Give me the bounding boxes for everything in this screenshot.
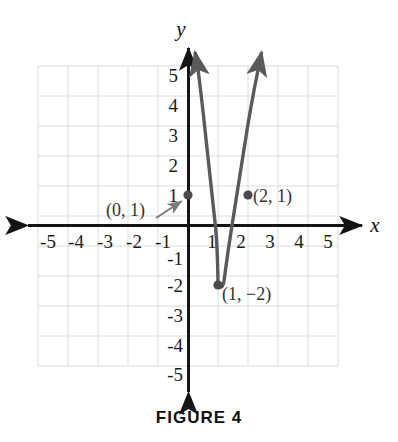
x-tick-label--5: -5 — [40, 231, 56, 252]
x-tick-label-4: 4 — [294, 231, 304, 252]
y-tick-label--5: -5 — [167, 364, 183, 385]
x-tick-label-3: 3 — [265, 231, 275, 252]
figure-caption: FIGURE 4 — [0, 408, 398, 428]
y-tick-label--1: -1 — [167, 248, 183, 269]
point-2-1 — [243, 190, 252, 199]
annotation-label-1-neg2: (1, −2) — [222, 284, 271, 305]
annotation-label-0-1: (0, 1) — [106, 200, 145, 221]
y-tick-label-1: 1 — [169, 185, 179, 206]
x-tick-label-5: 5 — [323, 231, 333, 252]
y-tick-label-2: 2 — [169, 155, 179, 176]
y-tick-label--4: -4 — [167, 335, 183, 356]
x-tick-label--2: -2 — [126, 231, 142, 252]
y-tick-label--3: -3 — [167, 305, 183, 326]
y-tick-label--2: -2 — [167, 275, 183, 296]
figure-container: y x -5 -4 -3 -2 -1 1 2 3 4 5 5 4 3 2 1 -… — [0, 0, 398, 442]
x-tick-label--3: -3 — [97, 231, 113, 252]
point-0-1 — [183, 190, 192, 199]
x-axis-label: x — [369, 213, 380, 237]
annotation-label-2-1: (2, 1) — [253, 186, 292, 207]
y-tick-label-5: 5 — [169, 65, 179, 86]
x-tick-label-2: 2 — [236, 231, 246, 252]
y-axis-label: y — [174, 17, 186, 41]
y-tick-label-3: 3 — [169, 125, 179, 146]
x-tick-label--4: -4 — [68, 231, 84, 252]
graph-plot: y x -5 -4 -3 -2 -1 1 2 3 4 5 5 4 3 2 1 -… — [0, 0, 398, 442]
axes — [28, 48, 362, 392]
parabola-curve — [195, 52, 262, 287]
x-tick-label-1: 1 — [207, 231, 217, 252]
x-tick-labels: -5 -4 -3 -2 -1 1 2 3 4 5 — [40, 231, 333, 252]
y-tick-label-4: 4 — [169, 95, 179, 116]
